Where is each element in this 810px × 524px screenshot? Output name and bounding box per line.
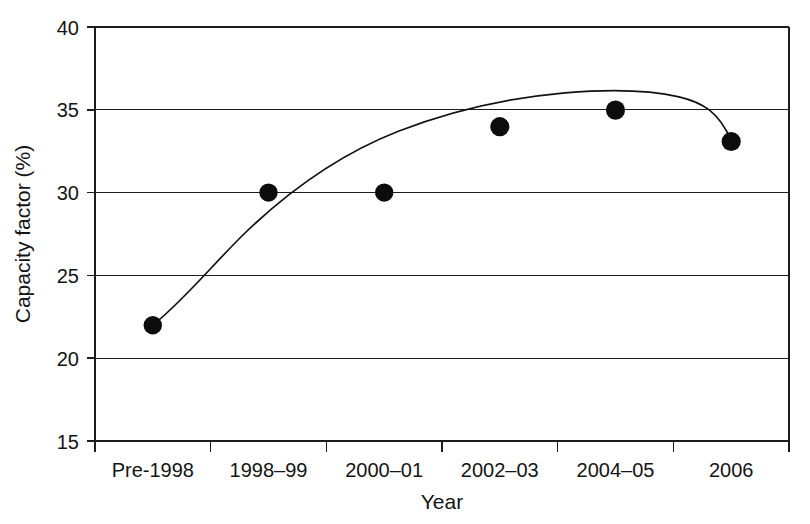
ytick-label-30: 30 xyxy=(57,182,79,204)
xtick-label-1998-99: 1998–99 xyxy=(230,459,308,481)
xtick-label-2006: 2006 xyxy=(709,459,754,481)
y-tick-marks xyxy=(87,27,95,441)
y-tick-labels: 40 35 30 25 20 15 xyxy=(57,17,79,453)
xtick-label-2000-01: 2000–01 xyxy=(345,459,423,481)
x-tick-labels: Pre-1998 1998–99 2000–01 2002–03 2004–05… xyxy=(112,459,754,481)
data-point-2006 xyxy=(722,132,741,151)
plot-area-background xyxy=(95,27,789,441)
data-point-2000-01 xyxy=(375,183,393,201)
data-point-pre-1998 xyxy=(144,316,162,334)
ytick-label-25: 25 xyxy=(57,265,79,287)
data-point-2002-03 xyxy=(490,117,509,136)
y-axis-title: Capacity factor (%) xyxy=(11,145,34,324)
capacity-factor-line-chart: 40 35 30 25 20 15 Pre-1998 1998–99 2000–… xyxy=(0,0,810,524)
xtick-label-2004-05: 2004–05 xyxy=(577,459,655,481)
data-point-1998-99 xyxy=(259,183,277,201)
ytick-label-20: 20 xyxy=(57,348,79,370)
ytick-label-40: 40 xyxy=(57,17,79,39)
xtick-label-pre-1998: Pre-1998 xyxy=(112,459,194,481)
ytick-label-15: 15 xyxy=(57,431,79,453)
ytick-label-35: 35 xyxy=(57,99,79,121)
xtick-label-2002-03: 2002–03 xyxy=(461,459,539,481)
chart-figure: 40 35 30 25 20 15 Pre-1998 1998–99 2000–… xyxy=(0,0,810,524)
x-tick-marks xyxy=(95,441,789,452)
data-point-2004-05 xyxy=(606,101,625,120)
x-axis-title: Year xyxy=(421,490,463,513)
